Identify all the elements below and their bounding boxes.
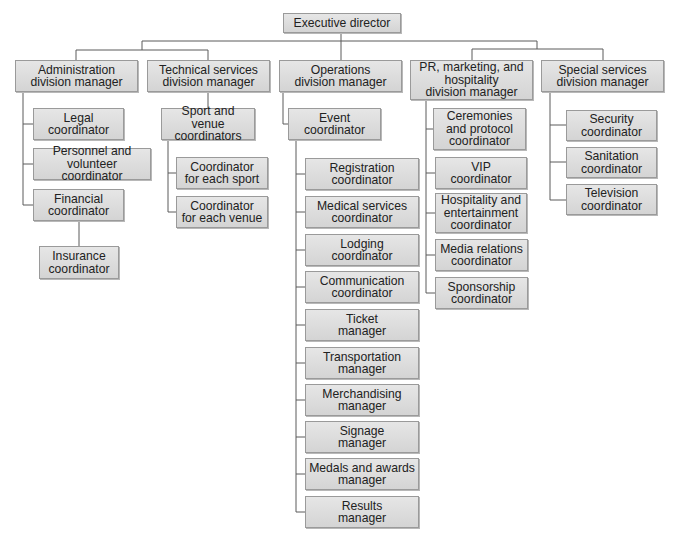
node-personnel-volunteer-coordinator: Personnel and volunteer coordinator [33, 148, 151, 180]
node-sport-venue-coordinators: Sport and venue coordinators [161, 108, 255, 140]
node-coordinator-each-venue: Coordinator for each venue [176, 196, 268, 228]
node-coordinator-each-sport: Coordinator for each sport [176, 157, 268, 189]
node-legal-coordinator: Legal coordinator [33, 108, 124, 140]
node-sanitation-coordinator: Sanitation coordinator [566, 147, 657, 178]
node-executive-director: Executive director [283, 13, 401, 33]
node-registration-coordinator: Registration coordinator [305, 158, 419, 190]
node-hospitality-entertainment-coordinator: Hospitality and entertainment coordinato… [435, 193, 527, 233]
node-insurance-coordinator: Insurance coordinator [39, 246, 119, 279]
node-communication-coordinator: Communication coordinator [305, 271, 419, 303]
node-ticket-manager: Ticket manager [305, 309, 419, 341]
node-merchandising-manager: Merchandising manager [305, 384, 419, 416]
node-results-manager: Results manager [305, 496, 419, 528]
node-security-coordinator: Security coordinator [566, 110, 657, 141]
node-medals-awards-manager: Medals and awards manager [305, 458, 419, 490]
node-sponsorship-coordinator: Sponsorship coordinator [435, 277, 528, 309]
node-technical-services-division-manager: Technical services division manager [147, 60, 270, 92]
node-administration-division-manager: Administration division manager [15, 60, 138, 92]
node-television-coordinator: Television coordinator [566, 184, 657, 215]
node-media-relations-coordinator: Media relations coordinator [435, 239, 528, 271]
node-special-services-division-manager: Special services division manager [541, 60, 664, 92]
node-signage-manager: Signage manager [305, 421, 419, 453]
node-ceremonies-protocol-coordinator: Ceremonies and protocol coordinator [433, 108, 526, 150]
node-pr-marketing-hospitality-division-manager: PR, marketing, and hospitality division … [410, 60, 533, 100]
node-medical-services-coordinator: Medical services coordinator [305, 196, 419, 228]
org-chart: Executive director Administration divisi… [0, 0, 678, 545]
node-operations-division-manager: Operations division manager [279, 60, 402, 92]
node-lodging-coordinator: Lodging coordinator [305, 234, 419, 266]
node-financial-coordinator: Financial coordinator [33, 189, 124, 221]
node-event-coordinator: Event coordinator [288, 108, 381, 140]
node-transportation-manager: Transportation manager [305, 347, 419, 379]
node-vip-coordinator: VIP coordinator [435, 157, 527, 189]
